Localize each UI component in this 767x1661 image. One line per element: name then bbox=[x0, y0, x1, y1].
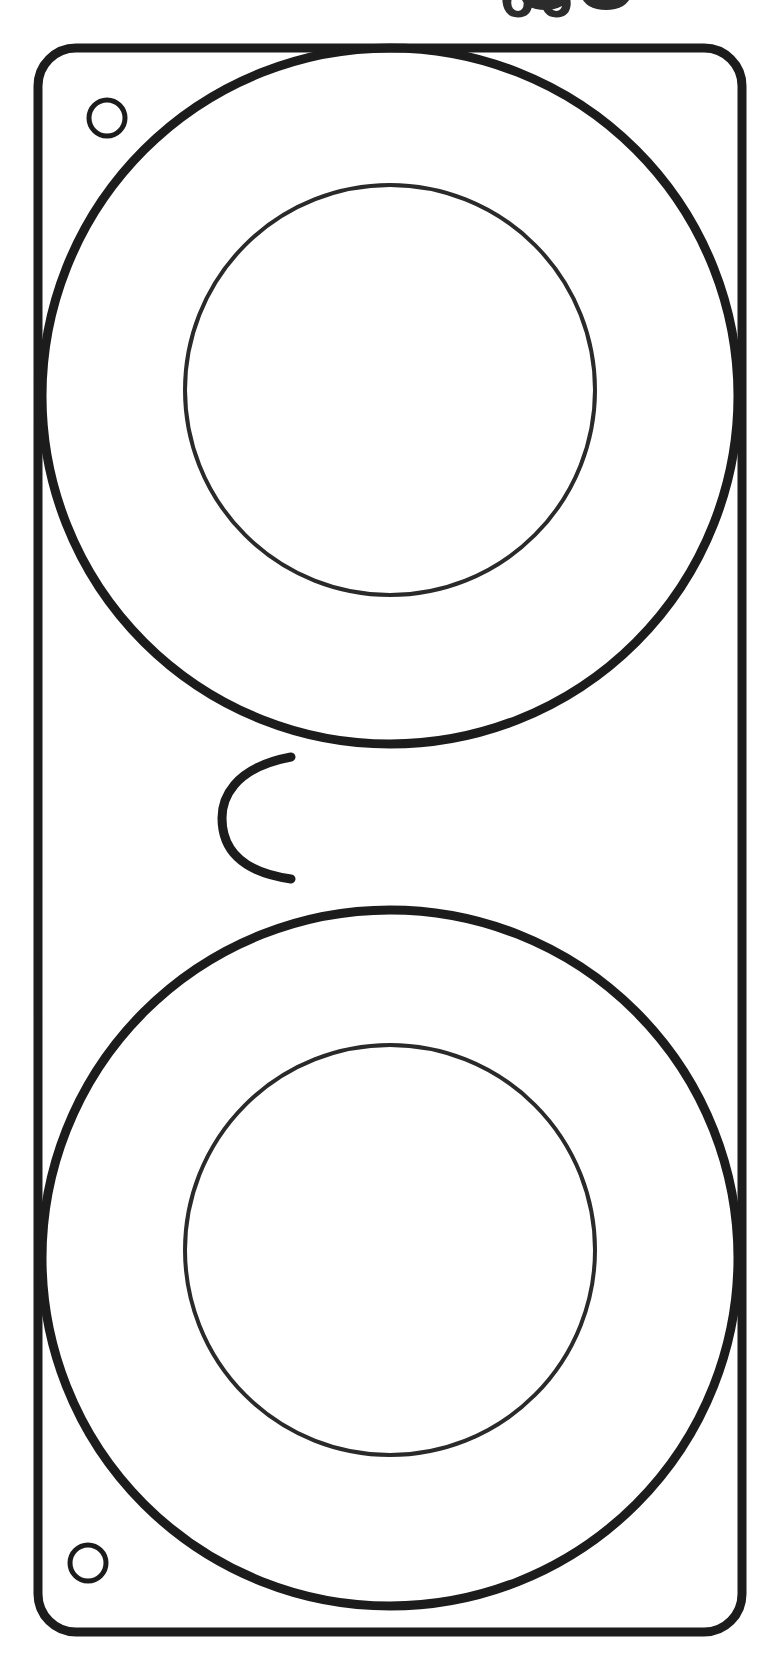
technical-drawing-canvas bbox=[0, 0, 767, 1661]
figure-root: 66 bbox=[0, 0, 767, 1661]
drawing-background bbox=[0, 0, 767, 1661]
